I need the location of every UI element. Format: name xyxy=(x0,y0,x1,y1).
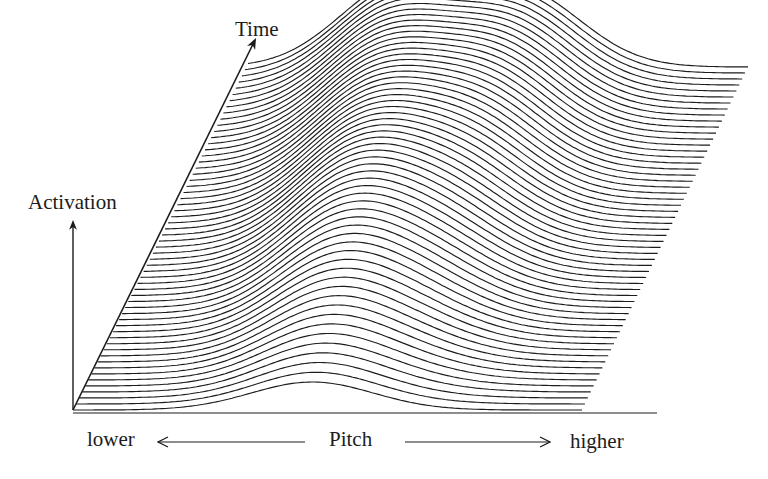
pitch-lower-label: lower xyxy=(87,427,135,452)
time-axis-label: Time xyxy=(235,17,279,42)
activation-axis-label: Activation xyxy=(28,190,117,215)
pitch-axis-label: Pitch xyxy=(329,427,372,452)
waterfall-chart xyxy=(0,0,768,479)
pitch-higher-label: higher xyxy=(570,429,624,454)
